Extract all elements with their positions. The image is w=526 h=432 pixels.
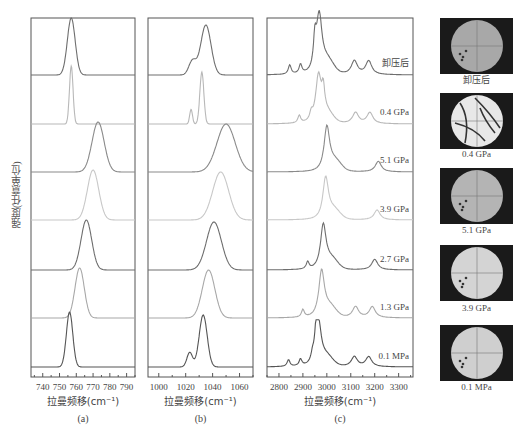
trace-label: 2.7 GPa [380, 254, 409, 264]
trace-5 [148, 222, 253, 270]
trace-3 [148, 124, 253, 172]
image-label-5: 0.1 MPa [430, 382, 523, 392]
trace-1 [31, 18, 135, 75]
trace-2 [148, 72, 253, 124]
image-label-4: 3.9 GPa [430, 303, 523, 313]
panel-caption: (b) [195, 413, 207, 425]
x-tick-label: 2900 [294, 382, 313, 392]
trace-7 [31, 312, 135, 367]
microscope-image-1 [440, 18, 513, 74]
x-tick-label: 1000 [150, 382, 169, 392]
x-tick-label: 3100 [342, 382, 361, 392]
trace-label: 5.1 GPa [380, 155, 409, 165]
x-tick-label: 790 [120, 382, 134, 392]
x-tick-label: 740 [36, 382, 50, 392]
x-tick-label: 3200 [366, 382, 385, 392]
raman-figure: 740750760770780790拉曼频移(cm⁻¹)(a)100010201… [0, 0, 526, 432]
x-tick-label: 780 [103, 382, 117, 392]
x-tick-label: 1040 [204, 382, 223, 392]
trace-label: 3.9 GPa [380, 204, 409, 214]
trace-label: 0.4 GPa [380, 107, 409, 117]
microscope-image-5 [440, 325, 513, 381]
panel-b: 1000102010401060拉曼频移(cm⁻¹)(b) [148, 18, 253, 425]
x-tick-label: 1020 [177, 382, 196, 392]
panel-a: 740750760770780790拉曼频移(cm⁻¹)(a) [31, 18, 135, 425]
panel-caption: (a) [77, 413, 88, 425]
trace-6 [31, 268, 135, 318]
trace-1 [148, 25, 253, 75]
x-axis-label: 拉曼频移(cm⁻¹) [47, 395, 119, 407]
x-tick-label: 3300 [390, 382, 409, 392]
panel-c: 280029003000310032003300拉曼频移(cm⁻¹)(c) [267, 11, 413, 425]
trace-label: 1.3 GPa [380, 302, 409, 312]
x-axis-label: 拉曼频移(cm⁻¹) [304, 395, 376, 407]
trace-3 [31, 122, 135, 172]
trace-label: 卸压后 [382, 57, 409, 68]
microscope-image-2 [440, 93, 513, 149]
image-label-1: 卸压后 [430, 73, 523, 86]
trace-7 [148, 315, 253, 367]
trace-label: 0.1 MPa [378, 351, 409, 361]
x-tick-label: 1060 [231, 382, 250, 392]
image-label-2: 0.4 GPa [430, 149, 523, 159]
trace-4 [31, 170, 135, 220]
y-axis-label: 强度(任意单位) [9, 140, 27, 250]
trace-4 [148, 172, 253, 220]
image-label-3: 5.1 GPa [430, 225, 523, 235]
x-tick-label: 760 [70, 382, 84, 392]
microscope-image-4 [440, 245, 513, 301]
x-tick-label: 2800 [270, 382, 289, 392]
x-tick-label: 750 [53, 382, 67, 392]
panel-caption: (c) [334, 413, 345, 425]
x-tick-label: 3000 [318, 382, 337, 392]
x-tick-label: 770 [86, 382, 100, 392]
trace-6 [148, 270, 253, 318]
trace-5 [31, 220, 135, 270]
microscope-image-3 [440, 168, 513, 224]
x-axis-label: 拉曼频移(cm⁻¹) [164, 395, 236, 407]
